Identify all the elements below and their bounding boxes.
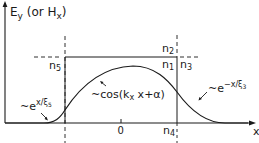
right-decay-annotation: ~e−x/ξ3	[208, 80, 247, 95]
right-decay-pointer-arrow-icon	[200, 92, 207, 99]
y-axis	[3, 1, 8, 123]
left-decay-annotation: ~ex/ξ5	[20, 98, 52, 113]
n5-label: n5	[49, 59, 61, 73]
origin-label: 0	[118, 125, 124, 136]
y-axis-arrow-icon	[3, 1, 8, 7]
n2-label: n2	[162, 42, 174, 56]
n1-label: n1	[162, 58, 174, 72]
n3-label: n3	[180, 58, 192, 72]
x-axis-label: x	[253, 125, 259, 138]
core-cos-annotation: ~cos(kx x+α)	[91, 88, 165, 102]
waveguide-mode-profile-diagram: Ey (or Hx) x 0 n5 n2 n1 n3 n4 ~ex/ξ5 ~co…	[0, 0, 259, 143]
y-axis-label: Ey (or Hx)	[10, 5, 67, 21]
n4-label: n4	[163, 124, 175, 138]
